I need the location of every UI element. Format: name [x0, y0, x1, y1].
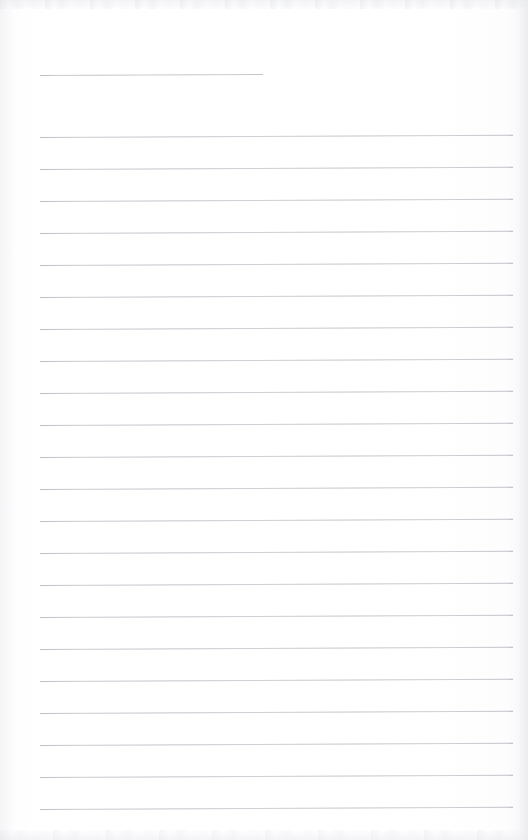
writing-row[interactable]	[40, 619, 513, 649]
writing-row[interactable]	[40, 203, 513, 233]
writing-row[interactable]	[40, 747, 513, 777]
writing-row[interactable]	[40, 715, 513, 745]
scanned-page: Blank Ruled Notepad Page	[0, 0, 528, 840]
writing-row[interactable]	[40, 651, 513, 681]
writing-row[interactable]	[40, 683, 513, 713]
writing-row[interactable]	[40, 587, 513, 617]
writing-row[interactable]	[40, 491, 513, 521]
writing-row[interactable]	[40, 459, 513, 489]
writing-row[interactable]	[40, 427, 513, 457]
writing-row[interactable]	[40, 171, 513, 201]
writing-row[interactable]	[40, 779, 513, 809]
writing-row[interactable]	[40, 235, 513, 265]
writing-row[interactable]	[40, 363, 513, 393]
writing-row[interactable]	[40, 523, 513, 553]
writing-row[interactable]	[40, 555, 513, 585]
writing-row[interactable]	[40, 299, 513, 329]
writing-row[interactable]	[40, 107, 513, 137]
header-rule	[40, 74, 263, 76]
writing-row[interactable]	[40, 267, 513, 297]
writing-row[interactable]	[40, 395, 513, 425]
writing-row[interactable]	[40, 331, 513, 361]
writing-row[interactable]	[40, 139, 513, 169]
